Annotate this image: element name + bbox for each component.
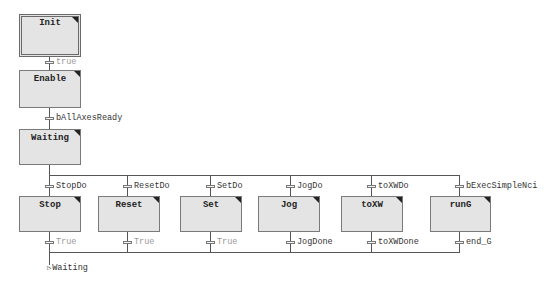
transition-label[interactable]: bExecSimpleNci	[466, 181, 537, 191]
step-set[interactable]: Set	[180, 196, 242, 232]
transition-label[interactable]: True	[134, 237, 154, 247]
step-waiting[interactable]: Waiting	[19, 129, 81, 165]
transition-label[interactable]: JogDone	[297, 237, 333, 247]
transition-bar[interactable]	[45, 117, 54, 120]
transition-label[interactable]: true	[56, 57, 76, 67]
transition-bar[interactable]	[45, 241, 54, 244]
transition-bar[interactable]	[367, 241, 376, 244]
step-name: Reset	[99, 200, 159, 210]
step-corner-marker	[72, 17, 78, 23]
step-toxw[interactable]: toXW	[341, 196, 403, 232]
transition-label[interactable]: SetDo	[217, 181, 243, 191]
step-name: Init	[22, 18, 78, 28]
transition-label[interactable]: StopDo	[56, 181, 87, 191]
step-corner-marker	[153, 197, 159, 203]
step-corner-marker	[235, 197, 241, 203]
step-name: Waiting	[20, 133, 80, 143]
transition-label[interactable]: end_G	[466, 237, 492, 247]
step-name: Set	[181, 200, 241, 210]
step-jog[interactable]: Jog	[258, 196, 320, 232]
transition-label[interactable]: toXWDone	[378, 237, 419, 247]
step-corner-marker	[484, 197, 490, 203]
transition-bar[interactable]	[123, 185, 132, 188]
step-reset[interactable]: Reset	[98, 196, 160, 232]
connector-line	[49, 165, 50, 175]
step-name: runG	[431, 200, 490, 210]
divergence-line	[49, 175, 460, 176]
step-corner-marker	[74, 197, 80, 203]
step-corner-marker	[313, 197, 319, 203]
transition-label[interactable]: True	[56, 237, 76, 247]
jump-arrow-icon: ▷	[47, 264, 51, 272]
connector-line	[49, 232, 50, 265]
step-rung[interactable]: runG	[430, 196, 491, 232]
transition-bar[interactable]	[45, 61, 54, 64]
step-name: Stop	[20, 200, 80, 210]
step-corner-marker	[74, 71, 80, 77]
convergence-line	[49, 252, 460, 253]
transition-bar[interactable]	[286, 185, 295, 188]
jump-to-waiting[interactable]: ▷Waiting	[47, 263, 88, 273]
step-stop[interactable]: Stop	[19, 196, 81, 232]
step-corner-marker	[74, 130, 80, 136]
step-name: toXW	[342, 200, 402, 210]
step-name: Jog	[259, 200, 319, 210]
jump-target-label: Waiting	[52, 263, 88, 273]
transition-label[interactable]: toXWDo	[378, 181, 409, 191]
step-corner-marker	[396, 197, 402, 203]
transition-label[interactable]: True	[217, 237, 237, 247]
step-init[interactable]: Init	[19, 14, 81, 57]
transition-label[interactable]: ResetDo	[134, 181, 170, 191]
transition-bar[interactable]	[286, 241, 295, 244]
transition-bar[interactable]	[206, 241, 215, 244]
transition-bar[interactable]	[455, 185, 464, 188]
transition-label[interactable]: bAllAxesReady	[56, 113, 122, 123]
step-name: Enable	[20, 74, 80, 84]
transition-bar[interactable]	[206, 185, 215, 188]
step-enable[interactable]: Enable	[19, 70, 81, 108]
transition-bar[interactable]	[45, 185, 54, 188]
transition-label[interactable]: JogDo	[297, 181, 323, 191]
transition-bar[interactable]	[367, 185, 376, 188]
sfc-diagram: Init true Enable bAllAxesReady Waiting S…	[0, 0, 547, 288]
transition-bar[interactable]	[455, 241, 464, 244]
transition-bar[interactable]	[123, 241, 132, 244]
